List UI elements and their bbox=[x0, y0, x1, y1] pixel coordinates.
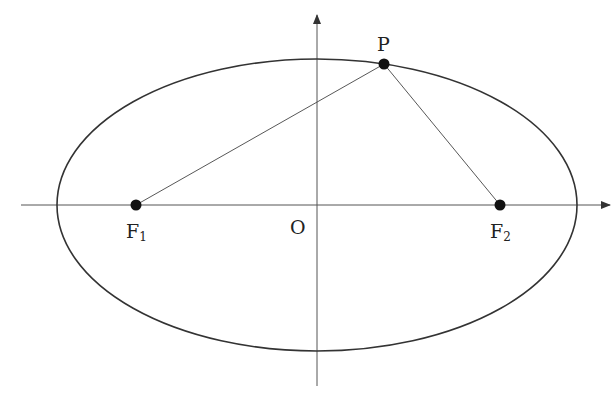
label-f1: F1 bbox=[126, 222, 147, 243]
ellipse-diagram bbox=[0, 0, 612, 397]
point-p bbox=[379, 59, 390, 70]
label-f1-text: F bbox=[126, 220, 139, 242]
segment-p-f2 bbox=[384, 64, 500, 205]
label-f1-subscript: 1 bbox=[139, 230, 147, 244]
label-p-text: P bbox=[377, 33, 390, 55]
label-f2-text: F bbox=[490, 220, 503, 242]
label-origin: O bbox=[290, 218, 306, 237]
label-p: P bbox=[377, 35, 390, 54]
label-f2: F2 bbox=[490, 222, 511, 243]
focus-f1 bbox=[131, 200, 142, 211]
segment-f1-p bbox=[136, 64, 384, 205]
focus-f2 bbox=[495, 200, 506, 211]
label-origin-text: O bbox=[290, 216, 306, 238]
label-f2-subscript: 2 bbox=[503, 230, 511, 244]
